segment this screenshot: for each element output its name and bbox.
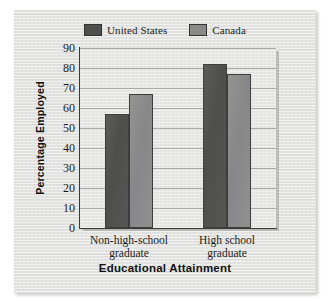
y-tick-label: 0 xyxy=(69,221,75,236)
y-tick-label: 60 xyxy=(63,101,75,116)
chart-legend: United States Canada xyxy=(14,24,316,36)
bar-canada-0 xyxy=(129,94,153,228)
x-axis-line xyxy=(79,228,277,229)
bar-united-states-1 xyxy=(203,64,227,228)
legend-label-canada: Canada xyxy=(212,24,246,36)
figure-root: United States Canada 9080706050403020100… xyxy=(0,0,332,307)
legend-swatch-icon xyxy=(189,24,207,36)
y-tick-label: 10 xyxy=(63,201,75,216)
y-tick-label: 20 xyxy=(63,181,75,196)
chart-panel: United States Canada 9080706050403020100… xyxy=(14,10,316,293)
bar-canada-1 xyxy=(227,74,251,228)
legend-label-united-states: United States xyxy=(107,24,167,36)
y-tick-label: 40 xyxy=(63,141,75,156)
y-tick-label: 90 xyxy=(63,41,75,56)
legend-entry-canada: Canada xyxy=(189,24,246,36)
category-label: Non-high-schoolgraduate xyxy=(90,234,168,260)
bar-united-states-0 xyxy=(105,114,129,228)
gridline xyxy=(80,48,276,49)
gridline xyxy=(80,68,276,69)
category-label-line: Non-high-school xyxy=(90,234,168,247)
category-label-line: graduate xyxy=(199,247,255,260)
y-tick-label: 30 xyxy=(63,161,75,176)
y-axis-title: Percentage Employed xyxy=(34,81,46,195)
legend-entry-united-states: United States xyxy=(84,24,167,36)
y-axis-line xyxy=(79,47,80,229)
category-label-line: graduate xyxy=(90,247,168,260)
plot-area: 9080706050403020100 Non-high-schoolgradu… xyxy=(80,48,276,228)
y-tick-label: 70 xyxy=(63,81,75,96)
x-axis-title: Educational Attainment xyxy=(14,262,316,274)
category-label: High schoolgraduate xyxy=(199,234,255,260)
category-label-line: High school xyxy=(199,234,255,247)
legend-swatch-icon xyxy=(84,24,102,36)
y-tick-label: 50 xyxy=(63,121,75,136)
y-tick-label: 80 xyxy=(63,61,75,76)
